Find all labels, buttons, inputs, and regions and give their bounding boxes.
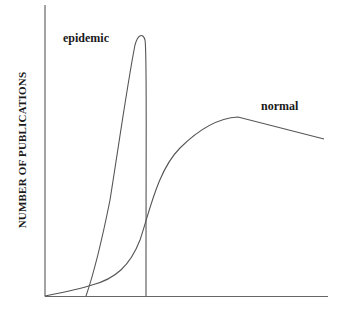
epidemic-label: epidemic — [63, 31, 109, 46]
chart-canvas — [0, 0, 340, 312]
epidemic-curve — [86, 36, 146, 296]
normal-label: normal — [261, 99, 298, 114]
normal-curve — [45, 117, 324, 296]
y-axis-label: NUMBER OF PUBLICATIONS — [16, 72, 28, 229]
